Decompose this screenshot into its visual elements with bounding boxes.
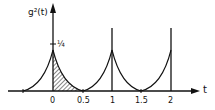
x-tick-label: 0	[50, 96, 55, 105]
shaded-region	[53, 50, 83, 91]
y-axis-label: g²(t)	[28, 7, 48, 17]
x-axis-arrow-icon	[191, 88, 200, 94]
x-tick-label: 1.5	[135, 96, 148, 105]
y-axis-arrow-icon	[50, 3, 56, 13]
chart-canvas: g²(t) ¼ t 0 0.5 1 1.5 2	[0, 0, 215, 110]
y-tick-label: ¼	[57, 40, 65, 49]
x-tick-label: 0.5	[77, 96, 90, 105]
x-tick-label: 1	[110, 96, 115, 105]
curve-g2	[23, 50, 171, 91]
x-tick-label: 2	[168, 96, 173, 105]
x-axis-label: t	[203, 84, 207, 95]
